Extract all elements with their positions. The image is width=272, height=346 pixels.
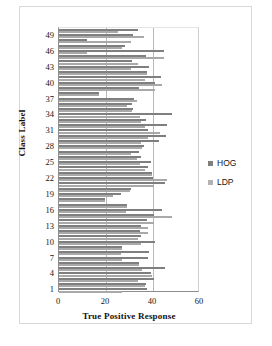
- bar-ldp: [59, 121, 141, 123]
- x-axis-title: True Positive Response: [40, 311, 218, 321]
- bar-ldp: [59, 169, 145, 171]
- bar-ldp: [59, 259, 122, 261]
- bar-group: [59, 49, 198, 54]
- bar-group: [59, 240, 198, 245]
- legend-item-hog: HOG: [208, 158, 252, 168]
- legend-swatch-hog: [208, 161, 213, 166]
- bar-ldp: [59, 216, 172, 218]
- y-tick-19: 19: [24, 190, 54, 198]
- legend-label-ldp: LDP: [217, 177, 234, 187]
- y-tick-40: 40: [24, 79, 54, 87]
- bar-group: [59, 76, 198, 81]
- bar-ldp: [59, 200, 105, 202]
- bar-ldp: [59, 153, 131, 155]
- bar-group: [59, 139, 198, 144]
- bar-group: [59, 102, 198, 107]
- bar-group: [59, 235, 198, 240]
- bar-group: [59, 118, 198, 123]
- y-tick-1: 1: [24, 285, 54, 293]
- bar-ldp: [59, 222, 154, 224]
- y-tick-31: 31: [24, 126, 54, 134]
- bar-group: [59, 86, 198, 91]
- bar-ldp: [59, 269, 142, 271]
- y-tick-4: 4: [24, 269, 54, 277]
- bar-group: [59, 129, 198, 134]
- chart-figure: Class Label 1471013161922252831343740434…: [0, 0, 272, 346]
- bar-group: [59, 208, 198, 213]
- bar-ldp: [59, 31, 118, 33]
- bar-ldp: [59, 248, 122, 250]
- bar-ldp: [59, 110, 132, 112]
- bar-group: [59, 155, 198, 160]
- x-tick-20: 20: [90, 296, 120, 306]
- x-tick-60: 60: [184, 296, 214, 306]
- bar-ldp: [59, 280, 138, 282]
- bar-group: [59, 92, 198, 97]
- bar-ldp: [59, 105, 127, 107]
- bar-group: [59, 145, 198, 150]
- bar-group: [59, 65, 198, 70]
- y-tick-46: 46: [24, 47, 54, 55]
- bar-ldp: [59, 147, 142, 149]
- bar-group: [59, 113, 198, 118]
- bar-ldp: [59, 79, 145, 81]
- bar-group: [59, 282, 198, 287]
- bar-ldp: [59, 253, 121, 255]
- bar-group: [59, 229, 198, 234]
- bar-ldp: [59, 227, 148, 229]
- bar-group: [59, 70, 198, 75]
- bar-ldp: [59, 63, 138, 65]
- bar-group: [59, 108, 198, 113]
- plot-area: [58, 27, 199, 292]
- bar-ldp: [59, 158, 137, 160]
- bar-ldp: [59, 142, 141, 144]
- x-tick-40: 40: [137, 296, 167, 306]
- bar-ldp: [59, 41, 131, 43]
- bar-ldp: [59, 211, 126, 213]
- bar-ldp: [59, 238, 138, 240]
- bar-group: [59, 55, 198, 60]
- bar-ldp: [59, 89, 155, 91]
- bar-group: [59, 261, 198, 266]
- bar-group: [59, 60, 198, 65]
- bar-group: [59, 267, 198, 272]
- bar-ldp: [59, 179, 167, 181]
- bar-group: [59, 81, 198, 86]
- bar-group: [59, 123, 198, 128]
- y-tick-37: 37: [24, 95, 54, 103]
- y-axis-tick-labels: 1471013161922252831343740434649: [22, 27, 54, 292]
- bar-ldp: [59, 195, 113, 197]
- bar-group: [59, 39, 198, 44]
- bar-ldp: [59, 243, 141, 245]
- bar-group: [59, 198, 198, 203]
- bar-group: [59, 256, 198, 261]
- bar-ldp: [59, 206, 127, 208]
- bar-ldp: [59, 126, 145, 128]
- y-tick-25: 25: [24, 158, 54, 166]
- y-tick-28: 28: [24, 142, 54, 150]
- bar-ldp: [59, 232, 148, 234]
- bar-group: [59, 187, 198, 192]
- y-tick-16: 16: [24, 206, 54, 214]
- bar-ldp: [59, 137, 148, 139]
- bar-group: [59, 272, 198, 277]
- y-tick-7: 7: [24, 254, 54, 262]
- bar-group: [59, 288, 198, 293]
- bar-ldp: [59, 100, 137, 102]
- y-tick-22: 22: [24, 174, 54, 182]
- bar-ldp: [59, 291, 122, 293]
- bar-group: [59, 214, 198, 219]
- bar-group: [59, 166, 198, 171]
- bar-group: [59, 192, 198, 197]
- bar-ldp: [59, 185, 154, 187]
- bar-ldp: [59, 174, 152, 176]
- bar-group: [59, 251, 198, 256]
- bar-ldp: [59, 275, 152, 277]
- bar-group: [59, 28, 198, 33]
- bar-group: [59, 277, 198, 282]
- bar-ldp: [59, 264, 139, 266]
- bar-ldp: [59, 73, 147, 75]
- bar-group: [59, 224, 198, 229]
- bar-ldp: [59, 68, 131, 70]
- legend-item-ldp: LDP: [208, 177, 252, 187]
